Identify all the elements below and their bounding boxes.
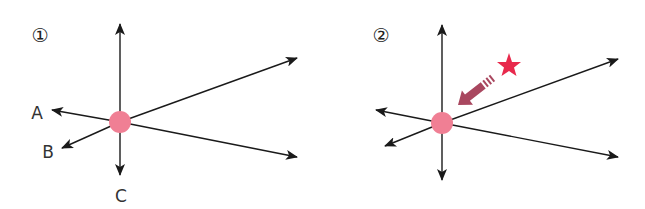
ray-lower-right bbox=[120, 122, 297, 157]
star-icon bbox=[497, 53, 521, 76]
vertex-dot bbox=[109, 111, 131, 133]
ray-upper-right bbox=[442, 59, 618, 123]
ray-lower-right bbox=[442, 123, 618, 157]
panel-number-1: ① bbox=[31, 24, 48, 46]
panel-number-2: ② bbox=[372, 24, 389, 46]
diagram-canvas: ① A B C ② bbox=[0, 0, 645, 209]
label-a: A bbox=[31, 103, 43, 123]
ray-upper-right bbox=[120, 58, 297, 122]
vertex-dot bbox=[431, 112, 453, 134]
label-b: B bbox=[42, 142, 54, 162]
panel-1: ① A B C bbox=[31, 24, 297, 206]
label-c: C bbox=[115, 186, 127, 206]
pointer-arrow-icon bbox=[452, 71, 498, 112]
panel-2: ② bbox=[372, 24, 618, 180]
